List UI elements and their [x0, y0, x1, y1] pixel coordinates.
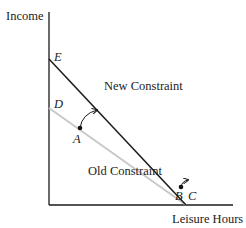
point-b-label: B	[175, 189, 183, 203]
point-d-label: D	[53, 97, 63, 111]
y-axis-label: Income	[6, 9, 44, 23]
point-e-label: E	[53, 50, 62, 64]
point-a-marker	[78, 126, 83, 131]
old-constraint-label: Old Constraint	[88, 164, 162, 178]
new-constraint-label: New Constraint	[104, 79, 183, 93]
budget-constraint-diagram: Income Leisure Hours E D A B C New Const…	[0, 0, 246, 228]
point-a-label: A	[72, 132, 81, 146]
x-axis-label: Leisure Hours	[172, 212, 243, 226]
shift-arrow-a	[80, 110, 97, 128]
old-constraint-line	[49, 108, 186, 205]
point-c-label: C	[188, 189, 197, 203]
